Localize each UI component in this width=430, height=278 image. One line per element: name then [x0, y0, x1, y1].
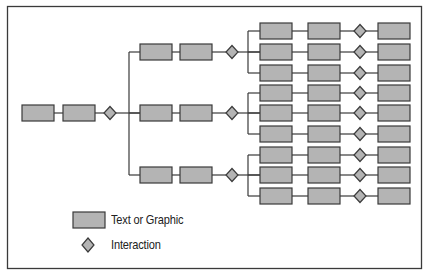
text-or-graphic-node — [308, 85, 340, 101]
text-or-graphic-node — [308, 147, 340, 163]
legend-diamond-icon — [82, 238, 94, 252]
text-or-graphic-node — [378, 23, 410, 39]
interaction-diamond-icon — [226, 46, 238, 59]
text-or-graphic-node — [180, 105, 212, 121]
text-or-graphic-node — [378, 167, 410, 183]
text-or-graphic-node — [260, 105, 292, 121]
text-or-graphic-node — [308, 44, 340, 60]
interaction-diamond-icon — [226, 169, 238, 182]
legend-rectangle-icon — [73, 212, 105, 228]
text-or-graphic-node — [378, 65, 410, 81]
interaction-diamond-icon — [354, 169, 366, 182]
interaction-diamond-icon — [104, 107, 116, 120]
text-or-graphic-node — [378, 147, 410, 163]
text-or-graphic-node — [308, 188, 340, 204]
text-or-graphic-node — [378, 85, 410, 101]
text-or-graphic-node — [260, 188, 292, 204]
legend-label-text-or-graphic: Text or Graphic — [111, 212, 183, 227]
text-or-graphic-node — [140, 105, 172, 121]
interaction-diamond-icon — [354, 149, 366, 162]
text-or-graphic-node — [260, 167, 292, 183]
interaction-diamond-icon — [354, 25, 366, 38]
text-or-graphic-node — [260, 126, 292, 142]
text-or-graphic-node — [378, 44, 410, 60]
text-or-graphic-node — [308, 23, 340, 39]
interaction-diamond-icon — [354, 128, 366, 141]
interaction-diamond-icon — [354, 87, 366, 100]
legend-label-interaction: Interaction — [111, 237, 161, 252]
text-or-graphic-node — [63, 105, 95, 121]
text-or-graphic-node — [308, 105, 340, 121]
branching-flow-diagram — [0, 0, 430, 278]
text-or-graphic-node — [378, 105, 410, 121]
text-or-graphic-node — [260, 23, 292, 39]
interaction-diamond-icon — [354, 107, 366, 120]
text-or-graphic-node — [308, 126, 340, 142]
text-or-graphic-node — [308, 167, 340, 183]
interaction-diamond-icon — [226, 107, 238, 120]
text-or-graphic-node — [260, 44, 292, 60]
text-or-graphic-node — [140, 44, 172, 60]
text-or-graphic-node — [180, 167, 212, 183]
text-or-graphic-node — [22, 105, 54, 121]
text-or-graphic-node — [308, 65, 340, 81]
interaction-diamond-icon — [354, 190, 366, 203]
text-or-graphic-node — [378, 126, 410, 142]
text-or-graphic-node — [260, 65, 292, 81]
text-or-graphic-node — [260, 85, 292, 101]
legend — [73, 212, 105, 252]
interaction-diamond-icon — [354, 46, 366, 59]
text-or-graphic-node — [140, 167, 172, 183]
text-or-graphic-node — [180, 44, 212, 60]
text-or-graphic-node — [378, 188, 410, 204]
interaction-diamond-icon — [354, 67, 366, 80]
text-or-graphic-node — [260, 147, 292, 163]
